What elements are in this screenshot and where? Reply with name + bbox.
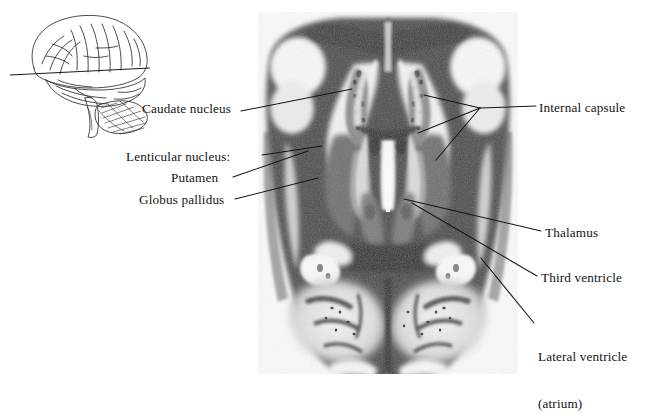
label-caudate-nucleus: Caudate nucleus <box>142 101 231 117</box>
label-internal-capsule: Internal capsule <box>539 100 625 116</box>
cerebrum-outline <box>32 15 147 88</box>
label-lenticular-nucleus: Lenticular nucleus: <box>126 149 230 165</box>
lateral-brain-line-drawing <box>0 4 175 139</box>
label-third-ventricle: Third ventricle <box>541 270 622 286</box>
horizontal-brain-section-photo <box>258 12 518 374</box>
label-thalamus: Thalamus <box>545 225 598 241</box>
label-putamen: Putamen <box>171 170 218 186</box>
label-lateral-ventricle: Lateral ventricle (atrium) <box>538 318 627 415</box>
label-globus-pallidus: Globus pallidus <box>139 192 224 208</box>
label-lateral-ventricle-line1: Lateral ventricle <box>538 349 627 365</box>
section-plane-line <box>10 68 150 75</box>
label-lateral-ventricle-line2: (atrium) <box>538 396 627 412</box>
